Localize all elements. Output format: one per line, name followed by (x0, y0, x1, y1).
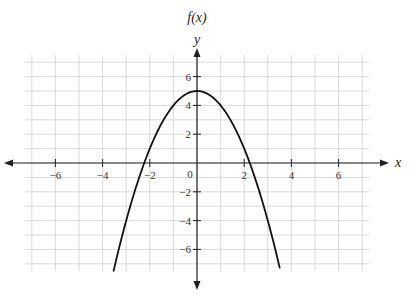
x-axis-left-arrow-icon (4, 160, 13, 167)
y-axis-label: y (192, 32, 201, 47)
x-tick-label: −4 (97, 169, 109, 181)
y-tick-label: −6 (179, 243, 191, 255)
function-graph: −6−4−2246642−2−4−6 f(x) y x 0 (0, 0, 412, 302)
x-tick-label: 4 (289, 169, 295, 181)
y-tick-label: −2 (179, 186, 191, 198)
origin-label: 0 (187, 168, 193, 180)
axes (4, 48, 389, 290)
y-tick-label: 2 (186, 128, 192, 140)
x-tick-label: 6 (336, 169, 342, 181)
y-axis-top-arrow-icon (194, 48, 201, 57)
x-tick-label: −2 (144, 169, 156, 181)
y-tick-label: 4 (186, 99, 192, 111)
y-tick-label: −4 (179, 215, 191, 227)
x-tick-label: 2 (241, 169, 247, 181)
x-tick-label: −6 (50, 169, 62, 181)
y-tick-label: 6 (186, 71, 192, 83)
y-axis-bottom-arrow-icon (194, 281, 201, 290)
x-axis-right-arrow-icon (380, 160, 389, 167)
x-axis-label: x (394, 155, 402, 170)
chart-title: f(x) (187, 10, 207, 26)
